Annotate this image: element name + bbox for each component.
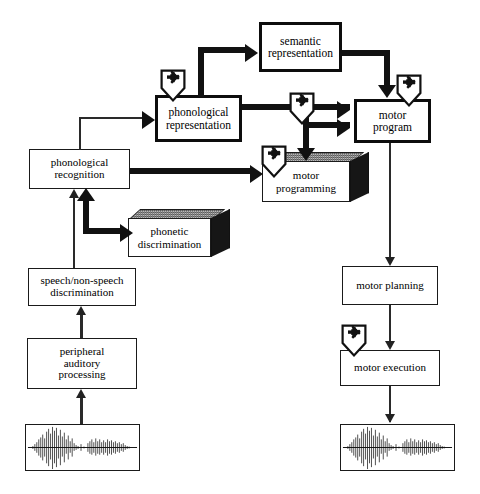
label-line: representation	[268, 47, 333, 59]
node-label-peripheral-auditory-processing: peripheral auditory processing	[56, 346, 107, 382]
edge-phonrecog-to-phonrep-vert	[79, 118, 81, 150]
label-line: phonetic	[151, 225, 189, 237]
node-phonological-recognition: phonological recognition	[29, 149, 130, 189]
label-line: speech/non-speech	[40, 274, 123, 286]
edge-phonrecog-to-phonetic-horz	[83, 228, 123, 234]
node-semantic-representation: semantic representation	[259, 22, 342, 72]
label-line: programming	[276, 182, 336, 194]
lesion-shield-icon	[160, 69, 186, 102]
arrowhead-right	[245, 44, 258, 62]
label-line: auditory	[64, 357, 101, 369]
waveform-icon	[26, 425, 139, 470]
lesion-marker-motor-program[interactable]	[396, 74, 422, 107]
arrowhead-down	[378, 85, 396, 98]
edge-phonrep-to-semantic-vert	[198, 47, 204, 97]
arrowhead-down	[385, 257, 395, 266]
label-line: semantic	[280, 35, 321, 47]
node-phonological-representation: phonological representation	[155, 95, 242, 142]
edge-speech-to-phonrecog	[73, 198, 75, 268]
label-line: program	[373, 121, 412, 133]
label-line: recognition	[54, 168, 104, 180]
input-waveform-panel	[25, 424, 140, 471]
box3d-side-face	[350, 152, 369, 204]
label-line: phonological	[168, 106, 228, 118]
edge-semantic-to-motorprogram-horz	[340, 50, 390, 56]
lesion-shield-icon	[341, 324, 367, 357]
lesion-shield-icon	[261, 145, 287, 178]
node-phonetic-discrimination: phonetic discrimination	[128, 209, 228, 257]
node-speech-nonspeech-discrimination: speech/non-speech discrimination	[28, 268, 136, 306]
lesion-marker-motor-programming[interactable]	[261, 145, 287, 178]
diagram-canvas: semantic representation phonological rep…	[0, 0, 480, 494]
edge-phonrecog-to-phonrep-horz	[79, 117, 142, 119]
arrowhead-down	[385, 414, 395, 423]
lesion-marker-phonological-representation[interactable]	[160, 69, 186, 102]
label-line: motor	[293, 169, 319, 181]
node-label-phonological-representation: phonological representation	[164, 106, 233, 131]
label-line: processing	[58, 368, 105, 380]
arrowhead-down	[385, 341, 395, 350]
arrowhead-right	[337, 101, 350, 119]
output-waveform-panel	[340, 424, 455, 471]
lesion-shield-icon	[289, 92, 315, 125]
node-peripheral-auditory-processing: peripheral auditory processing	[27, 338, 137, 389]
edge-peripheral-to-speech	[80, 315, 83, 338]
edge-phonrecog-to-motorprog-horz	[130, 168, 254, 174]
node-label-motor-execution: motor execution	[352, 362, 428, 374]
edge-motorprogram-to-motorplanning	[389, 143, 391, 259]
arrowhead-up	[76, 306, 86, 315]
box3d-front-face: phonetic discrimination	[128, 218, 211, 257]
edge-phonrep-to-semantic-horz	[198, 47, 248, 53]
node-label-speech-nonspeech-discrimination: speech/non-speech discrimination	[38, 275, 125, 299]
node-label-motor-program: motor program	[371, 109, 414, 134]
edge-semantic-to-motorprogram-vert	[384, 50, 390, 88]
label-line: representation	[166, 119, 231, 131]
label-line: discrimination	[50, 286, 114, 298]
label-line: peripheral	[60, 345, 105, 357]
arrowhead-down	[297, 148, 315, 161]
lesion-marker-phonrep-to-motorprogram-link[interactable]	[289, 92, 315, 125]
arrowhead-up	[76, 389, 86, 398]
node-motor-planning: motor planning	[342, 266, 438, 305]
label-line: discrimination	[138, 238, 202, 250]
arrowhead-up	[77, 188, 95, 201]
arrowhead-right	[142, 111, 155, 129]
node-label-phonological-recognition: phonological recognition	[49, 157, 110, 181]
lesion-marker-motor-execution[interactable]	[341, 324, 367, 357]
label-line: phonological	[51, 156, 108, 168]
label-line: motor	[379, 109, 406, 121]
arrowhead-right	[337, 119, 350, 137]
node-label-motor-planning: motor planning	[354, 280, 426, 292]
lesion-shield-icon	[396, 74, 422, 107]
arrowhead-right	[120, 224, 133, 242]
node-label-semantic-representation: semantic representation	[266, 35, 335, 60]
waveform-icon	[341, 425, 454, 470]
node-label-phonetic-discrimination: phonetic discrimination	[138, 225, 202, 249]
edge-input-to-peripheral	[80, 398, 83, 424]
